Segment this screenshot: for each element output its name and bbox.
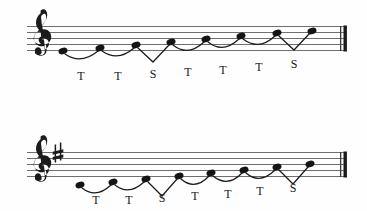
note-head — [75, 181, 86, 190]
note-head — [272, 29, 283, 38]
staff-system-1: T T S T T T S — [0, 0, 367, 105]
interval-label: S — [146, 68, 160, 80]
note-head — [141, 175, 152, 184]
interval-label: T — [89, 194, 103, 206]
interval-label: T — [253, 185, 267, 197]
interval-label: T — [122, 194, 136, 206]
note-head — [239, 166, 250, 175]
note-head — [131, 41, 142, 50]
interval-label: T — [74, 70, 88, 82]
interval-label: T — [111, 70, 125, 82]
note-head — [58, 47, 69, 56]
note-head — [108, 178, 119, 187]
interval-labels-2: T T S T T T S — [0, 194, 367, 211]
staff-system-2: T T S T T T S — [0, 106, 367, 211]
interval-label: T — [221, 188, 235, 200]
interval-label: T — [252, 61, 266, 73]
staff-system-1-graphic — [0, 0, 367, 105]
music-notation-figure: T T S T T T S — [0, 0, 367, 211]
interval-label: S — [155, 192, 169, 204]
sharp-sign-icon — [53, 143, 64, 163]
interval-label: S — [287, 58, 301, 70]
interval-label: T — [216, 64, 230, 76]
note-head — [201, 35, 212, 44]
staff-lines-1 — [27, 27, 347, 51]
interval-label: T — [181, 66, 195, 78]
interval-labels-1: T T S T T T S — [0, 70, 367, 88]
note-heads-1 — [58, 27, 318, 56]
interval-label: T — [188, 190, 202, 202]
note-head — [174, 172, 185, 181]
interval-label: S — [286, 182, 300, 194]
note-head — [305, 160, 316, 169]
staff-lines-2 — [27, 153, 347, 177]
